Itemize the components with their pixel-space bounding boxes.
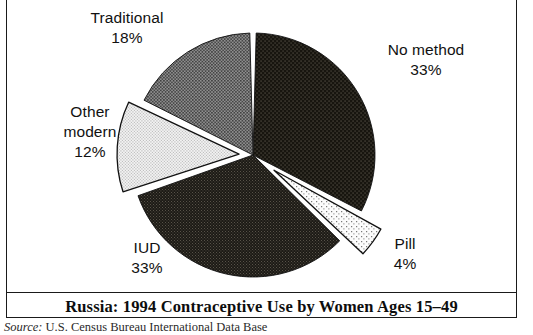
slice-label-iud: IUD 33% [92,238,202,278]
source-note-label: Source: [4,320,42,334]
slice-label-no-method: No method 33% [366,40,486,80]
slice-label-no-method-percent: 33% [366,60,486,80]
slice-label-traditional: Traditional 18% [62,8,192,48]
pie-chart-plot-area: No method 33% Traditional 18% Other mode… [0,0,533,292]
slice-label-no-method-name: No method [366,40,486,60]
slice-label-pill-name: Pill [372,234,438,254]
slice-label-iud-percent: 33% [92,258,202,278]
source-note-text: U.S. Census Bureau International Data Ba… [42,320,267,334]
slice-label-traditional-name: Traditional [62,8,192,28]
title-separator-rule [7,292,516,293]
slice-label-iud-name: IUD [92,238,202,258]
slice-label-other-modern-name-line1: Other [40,102,140,122]
chart-title: Russia: 1994 Contraceptive Use by Women … [7,296,516,317]
slice-label-other-modern-name-line2: modern [40,122,140,142]
slice-label-traditional-percent: 18% [62,28,192,48]
slice-label-pill: Pill 4% [372,234,438,274]
slice-label-other-modern: Other modern 12% [40,102,140,162]
slice-label-pill-percent: 4% [372,254,438,274]
slice-label-other-modern-percent: 12% [40,142,140,162]
source-note: Source: U.S. Census Bureau International… [4,320,267,335]
